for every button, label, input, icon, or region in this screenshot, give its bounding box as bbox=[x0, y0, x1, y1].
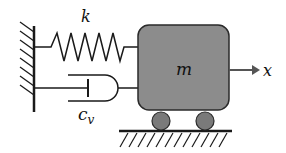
damper bbox=[34, 75, 138, 101]
mass-spring-damper-diagram: k m x cv bbox=[0, 0, 286, 153]
ground bbox=[119, 131, 232, 147]
displacement-label: x bbox=[263, 61, 272, 80]
wheel-left bbox=[152, 112, 170, 130]
mass-label: m bbox=[176, 59, 192, 79]
arrow-head-icon bbox=[252, 65, 260, 75]
damper-label-subscript: v bbox=[88, 113, 95, 127]
ground-hatching bbox=[120, 133, 227, 147]
displacement-arrow bbox=[229, 65, 260, 75]
damper-label-main: c bbox=[78, 104, 88, 124]
damper-label: cv bbox=[78, 104, 95, 127]
wheel-right bbox=[196, 112, 214, 130]
fixed-wall bbox=[20, 22, 34, 112]
spring-label: k bbox=[81, 7, 91, 26]
spring bbox=[34, 33, 138, 61]
wall-hatching bbox=[20, 22, 34, 95]
